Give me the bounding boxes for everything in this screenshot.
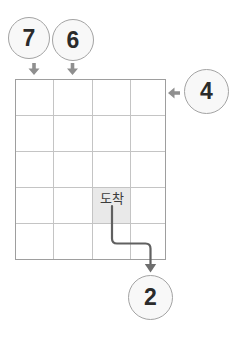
grid-line-vertical	[130, 80, 131, 259]
entry-arrow-down-6-icon	[67, 63, 78, 75]
entry-circle-6-label: 6	[67, 29, 80, 52]
entry-arrow-left-4-icon	[168, 88, 180, 99]
entry-arrow-down-7-icon	[29, 63, 40, 75]
puzzle-canvas: 도착 7 6 4 2	[0, 0, 242, 342]
entry-circle-6: 6	[52, 19, 94, 61]
puzzle-grid: 도착	[15, 79, 166, 260]
grid-line-horizontal	[16, 187, 165, 188]
arrival-label: 도착	[100, 192, 124, 205]
exit-circle-2-label: 2	[144, 286, 157, 309]
grid-line-vertical	[92, 80, 93, 259]
grid-line-horizontal	[16, 151, 165, 152]
grid-line-horizontal	[16, 223, 165, 224]
arrival-cell: 도착	[92, 187, 131, 223]
entry-circle-4-label: 4	[200, 80, 213, 103]
grid-line-horizontal	[16, 115, 165, 116]
exit-arrow-down-icon	[145, 264, 156, 273]
exit-circle-2: 2	[128, 275, 173, 320]
entry-circle-4: 4	[184, 69, 229, 114]
grid-line-vertical	[53, 80, 54, 259]
entry-circle-7: 7	[8, 17, 50, 59]
entry-circle-7-label: 7	[23, 27, 36, 50]
